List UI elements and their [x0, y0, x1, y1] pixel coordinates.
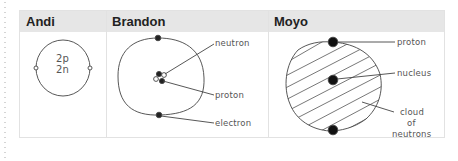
- electron-icon: [34, 66, 38, 70]
- proton-icon: [328, 125, 338, 135]
- brandon-label-neutron: neutron: [215, 38, 250, 48]
- moyo-label-cloud: cloud: [400, 107, 424, 117]
- brandon-label-electron: electron: [215, 118, 251, 128]
- electron-icon: [155, 35, 161, 41]
- electron-icon: [88, 66, 92, 70]
- andi-neutron-count: 2n: [56, 64, 69, 75]
- brandon-atom-diagram: [118, 35, 214, 123]
- atom-diagrams: [0, 0, 458, 161]
- nucleus-icon: [328, 75, 338, 85]
- electron-icon: [156, 112, 162, 118]
- moyo-label-neutrons: neutrons: [392, 129, 431, 139]
- proton-icon: [328, 37, 338, 47]
- neutron-icon: [154, 77, 159, 82]
- moyo-label-nucleus: nucleus: [397, 68, 431, 78]
- moyo-atom-diagram: [270, 20, 395, 146]
- moyo-label-proton: proton: [397, 37, 426, 47]
- brandon-label-proton: proton: [215, 90, 244, 100]
- andi-proton-count: 2p: [56, 53, 69, 64]
- moyo-label-of: of: [407, 118, 416, 128]
- proton-icon: [156, 71, 161, 76]
